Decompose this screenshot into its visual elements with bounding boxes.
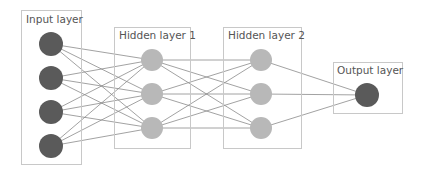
output-node-1: [355, 83, 379, 107]
hidden2-layer-label: Hidden layer 2: [228, 29, 305, 41]
hidden2-node-2: [250, 83, 272, 105]
hidden1-node-2: [141, 83, 163, 105]
hidden1-node-3: [141, 117, 163, 139]
layer-labels: Input layerHidden layer 1Hidden layer 2O…: [26, 13, 404, 76]
input-node-2: [39, 66, 63, 90]
input-node-1: [39, 32, 63, 56]
hidden2-node-1: [250, 49, 272, 71]
input-layer-label: Input layer: [26, 13, 84, 25]
input-node-4: [39, 134, 63, 158]
connections: [51, 44, 367, 146]
layer-boxes: [22, 11, 403, 165]
input-node-3: [39, 100, 63, 124]
hidden1-layer-label: Hidden layer 1: [119, 29, 196, 41]
output-layer-label: Output layer: [337, 64, 404, 76]
hidden1-node-1: [141, 49, 163, 71]
hidden2-node-3: [250, 117, 272, 139]
neural-network-diagram: Input layerHidden layer 1Hidden layer 2O…: [0, 0, 423, 173]
